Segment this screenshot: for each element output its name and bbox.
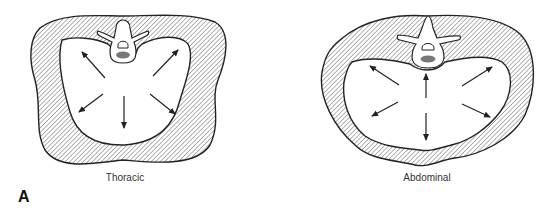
abdominal-caption: Abdominal — [392, 172, 462, 183]
thoracic-cross-section — [31, 15, 226, 164]
abdominal-cross-section — [321, 15, 533, 165]
figure-canvas — [0, 0, 554, 222]
panel-label: A — [18, 188, 30, 206]
thoracic-caption: Thoracic — [95, 172, 155, 183]
